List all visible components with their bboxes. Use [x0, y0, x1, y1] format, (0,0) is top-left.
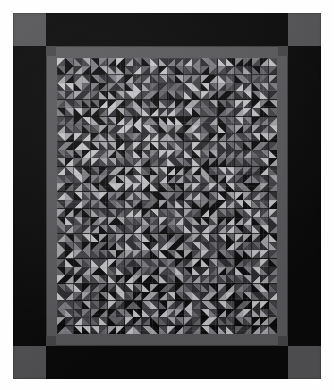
triangle-unit: [82, 301, 90, 309]
triangle-unit: [150, 125, 158, 133]
triangle-unit: [235, 108, 243, 116]
triangle-unit: [99, 192, 107, 200]
triangle-unit: [82, 209, 90, 217]
triangle-unit: [226, 117, 234, 125]
triangle-unit: [116, 175, 124, 183]
triangle-unit: [91, 117, 99, 125]
triangle-unit: [226, 108, 234, 116]
triangle-unit: [175, 225, 183, 233]
triangle-unit: [184, 83, 192, 91]
triangle-unit: [133, 275, 141, 283]
corner-block-top-right: [288, 13, 321, 46]
triangle-unit: [159, 150, 167, 158]
triangle-unit: [218, 275, 226, 283]
triangle-unit: [184, 225, 192, 233]
triangle-unit: [252, 142, 260, 150]
triangle-unit: [192, 275, 200, 283]
triangle-unit: [252, 326, 260, 334]
triangle-unit: [57, 209, 65, 217]
triangle-unit: [243, 91, 251, 99]
triangle-unit: [218, 142, 226, 150]
triangle-unit: [167, 66, 175, 74]
triangle-unit: [133, 58, 141, 66]
triangle-unit: [235, 309, 243, 317]
triangle-unit: [209, 91, 217, 99]
triangle-unit: [201, 250, 209, 258]
triangle-unit: [184, 275, 192, 283]
triangle-unit: [108, 267, 116, 275]
triangle-unit: [209, 175, 217, 183]
triangle-unit: [269, 100, 277, 108]
triangle-unit: [252, 292, 260, 300]
triangle-unit: [91, 217, 99, 225]
triangle-unit: [99, 125, 107, 133]
triangle-unit: [167, 267, 175, 275]
triangle-unit: [142, 326, 150, 334]
triangle-unit: [175, 209, 183, 217]
triangle-unit: [125, 142, 133, 150]
triangle-unit: [133, 200, 141, 208]
triangle-unit: [116, 292, 124, 300]
triangle-unit: [57, 309, 65, 317]
triangle-unit: [184, 209, 192, 217]
triangle-unit: [260, 150, 268, 158]
triangle-unit: [159, 133, 167, 141]
triangle-unit: [159, 83, 167, 91]
triangle-unit: [74, 175, 82, 183]
triangle-unit: [252, 83, 260, 91]
triangle-unit: [226, 83, 234, 91]
triangle-unit: [269, 217, 277, 225]
triangle-unit: [252, 259, 260, 267]
triangle-unit: [108, 234, 116, 242]
triangle-unit: [82, 58, 90, 66]
triangle-unit: [57, 83, 65, 91]
triangle-unit: [235, 175, 243, 183]
triangle-unit: [209, 317, 217, 325]
triangle-unit: [226, 100, 234, 108]
triangle-unit: [142, 133, 150, 141]
triangle-unit: [150, 158, 158, 166]
triangle-unit: [74, 117, 82, 125]
triangle-unit: [133, 250, 141, 258]
triangle-unit: [243, 309, 251, 317]
triangle-unit: [260, 91, 268, 99]
triangle-unit: [167, 75, 175, 83]
triangle-unit: [150, 58, 158, 66]
triangle-unit: [209, 192, 217, 200]
triangle-unit: [108, 58, 116, 66]
triangle-unit: [150, 301, 158, 309]
triangle-unit: [133, 133, 141, 141]
triangle-unit: [201, 125, 209, 133]
triangle-unit-grid: [57, 58, 277, 334]
triangle-unit: [125, 183, 133, 191]
triangle-unit: [201, 225, 209, 233]
triangle-unit: [91, 250, 99, 258]
triangle-unit: [226, 142, 234, 150]
triangle-unit: [175, 117, 183, 125]
triangle-unit: [269, 91, 277, 99]
triangle-unit: [142, 275, 150, 283]
triangle-unit: [99, 217, 107, 225]
triangle-unit: [218, 301, 226, 309]
triangle-unit: [125, 83, 133, 91]
triangle-unit: [235, 75, 243, 83]
triangle-unit: [201, 100, 209, 108]
triangle-unit: [252, 117, 260, 125]
triangle-unit: [65, 309, 73, 317]
triangle-unit: [226, 275, 234, 283]
triangle-unit: [159, 142, 167, 150]
triangle-unit: [74, 309, 82, 317]
triangle-unit: [226, 301, 234, 309]
triangle-unit: [226, 234, 234, 242]
triangle-unit: [269, 275, 277, 283]
triangle-unit: [192, 217, 200, 225]
triangle-unit: [226, 309, 234, 317]
triangle-unit: [159, 192, 167, 200]
triangle-unit: [125, 326, 133, 334]
triangle-unit: [150, 209, 158, 217]
triangle-unit: [74, 158, 82, 166]
triangle-unit: [209, 150, 217, 158]
triangle-unit: [226, 242, 234, 250]
triangle-unit: [142, 66, 150, 74]
triangle-unit: [91, 242, 99, 250]
